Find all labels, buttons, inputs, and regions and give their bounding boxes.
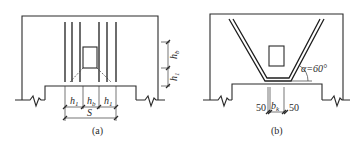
label-h1-left: h1 [70, 95, 79, 108]
break-line-right-b [322, 96, 350, 106]
panel-a: h1 hb h1 S (a) hb h1 [15, 16, 181, 137]
break-line-left-b [203, 96, 232, 106]
label-50-left: 50 [256, 102, 266, 113]
opening-a [83, 47, 97, 68]
caption-b: (b) [271, 125, 283, 137]
opening-b [269, 46, 284, 66]
reinforcement-diagram: h1 hb h1 S (a) hb h1 α=60° [0, 0, 358, 145]
angle-label: α=60° [301, 63, 327, 74]
break-line-left-a [15, 96, 45, 106]
label-bk: bk [271, 100, 280, 113]
beam-outline-b [232, 84, 322, 100]
panel-b: α=60° 50 bk 50 (b) [203, 14, 350, 137]
label-s: S [87, 107, 92, 118]
label-50-right: 50 [289, 102, 299, 113]
break-line-right-a [136, 96, 165, 106]
label-vdim-hb: hb [168, 50, 181, 59]
slab-outline-b [210, 14, 343, 100]
label-h1-right: h1 [104, 95, 113, 108]
caption-a: (a) [92, 125, 103, 137]
label-vdim-h1: h1 [168, 73, 181, 82]
slab-outline-a [22, 16, 158, 100]
